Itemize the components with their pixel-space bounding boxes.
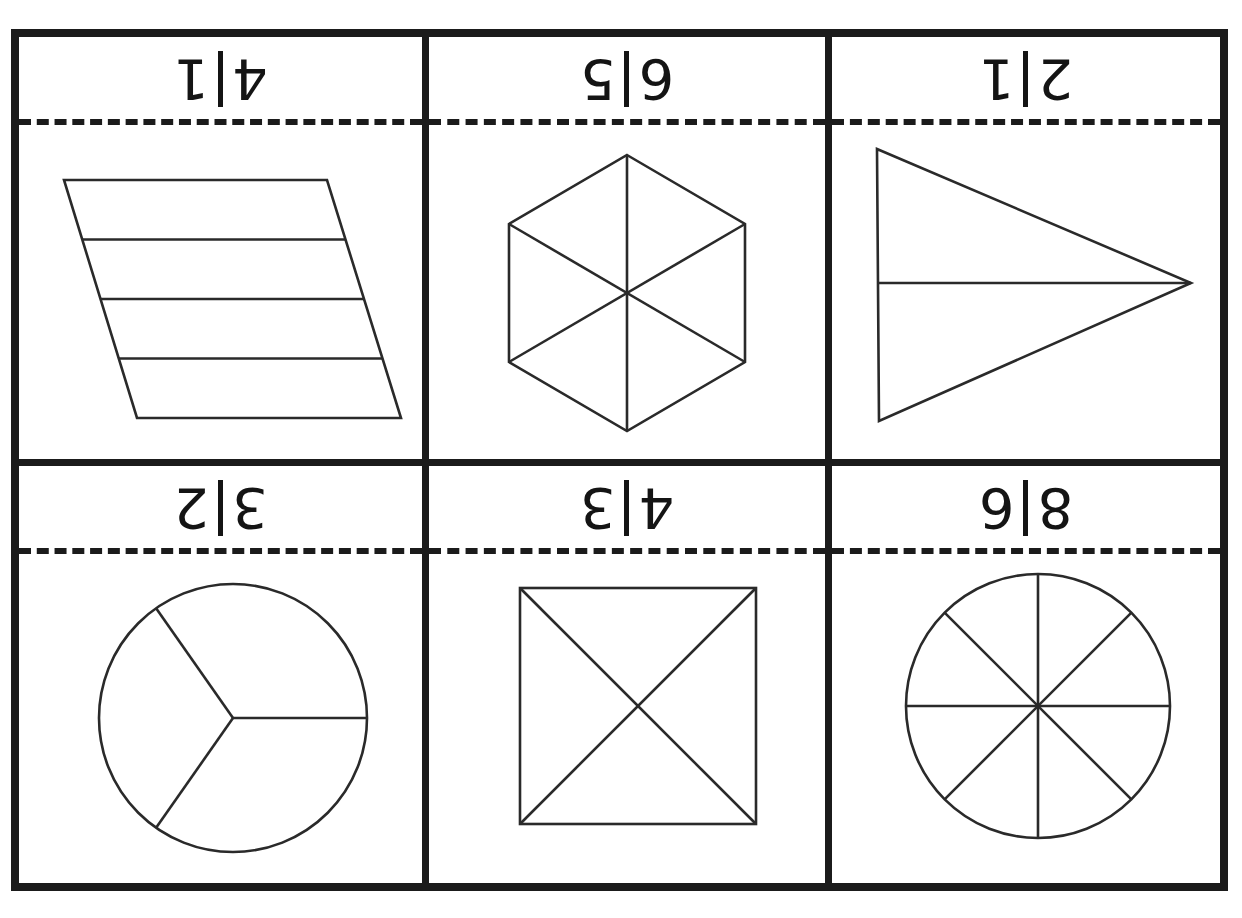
fraction-numerator: 2 [173, 480, 209, 536]
fraction-grid: 4 1 [11, 29, 1228, 891]
fraction-denominator: 2 [1038, 51, 1074, 107]
fraction-denominator: 3 [232, 480, 268, 536]
fraction-label-1: 4 1 [19, 43, 422, 115]
cut-line-4 [19, 548, 422, 554]
fraction-label-4: 3 2 [19, 472, 422, 544]
shape-circle-thirds [19, 562, 422, 862]
fraction-numerator: 3 [580, 480, 616, 536]
fraction-cell-3[interactable]: 2 1 [832, 37, 1220, 459]
grid-horizontal-rule [19, 459, 1220, 466]
fraction-label-3: 2 1 [832, 43, 1220, 115]
fraction-bar-icon [218, 51, 223, 107]
fraction-numerator: 5 [580, 51, 616, 107]
shape-hexagon-sixths [429, 133, 825, 433]
fraction-numerator: 1 [979, 51, 1015, 107]
fraction-denominator: 4 [232, 51, 268, 107]
cut-line-5 [429, 548, 825, 554]
cut-line-6 [832, 548, 1220, 554]
cut-line-1 [19, 119, 422, 125]
fraction-cell-6[interactable]: 8 6 [832, 466, 1220, 883]
fraction-label-2: 6 5 [429, 43, 825, 115]
fraction-denominator: 4 [639, 480, 675, 536]
worksheet-page: 4 1 [0, 0, 1242, 918]
fraction-label-6: 8 6 [832, 472, 1220, 544]
fraction-bar-icon [1024, 51, 1029, 107]
cut-line-3 [832, 119, 1220, 125]
fraction-numerator: 6 [979, 480, 1015, 536]
fraction-denominator: 6 [639, 51, 675, 107]
fraction-cell-4[interactable]: 3 2 [19, 466, 422, 883]
shape-triangle-halves [832, 133, 1220, 433]
fraction-denominator: 8 [1038, 480, 1074, 536]
fraction-cell-5[interactable]: 4 3 [429, 466, 825, 883]
shape-square-quarters [429, 562, 825, 862]
fraction-label-5: 4 3 [429, 472, 825, 544]
fraction-bar-icon [1024, 480, 1029, 536]
fraction-cell-2[interactable]: 6 5 [429, 37, 825, 459]
fraction-cell-1[interactable]: 4 1 [19, 37, 422, 459]
fraction-numerator: 1 [173, 51, 209, 107]
shape-circle-eighths [832, 562, 1220, 862]
fraction-bar-icon [625, 51, 630, 107]
shape-parallelogram-quarters [19, 133, 422, 433]
fraction-bar-icon [218, 480, 223, 536]
fraction-bar-icon [625, 480, 630, 536]
cut-line-2 [429, 119, 825, 125]
